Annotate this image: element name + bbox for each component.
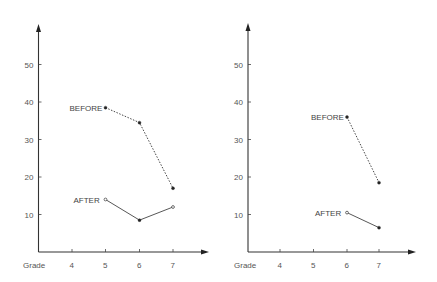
- chart-panel-right: 10203040504567GradeBEFOREAFTER: [234, 23, 416, 270]
- x-axis-arrow-icon: [408, 250, 416, 255]
- series-label-after: AFTER: [74, 196, 100, 205]
- y-tick-label: 50: [25, 61, 34, 70]
- y-tick-label: 30: [25, 136, 34, 145]
- chart-panel-left: 10203040504567GradeBEFOREAFTER: [23, 24, 209, 270]
- series-line-before: [347, 117, 379, 183]
- series-line-after: [106, 200, 174, 221]
- data-point-marker-icon: [172, 187, 175, 190]
- x-axis-title: Grade: [23, 261, 46, 270]
- data-point-marker-icon: [346, 116, 349, 119]
- series-line-before: [106, 108, 174, 189]
- series-label-before: BEFORE: [70, 104, 103, 113]
- x-tick-label: 7: [377, 261, 382, 270]
- x-tick-label: 7: [171, 261, 176, 270]
- data-point-marker-icon: [104, 198, 107, 201]
- y-tick-label: 10: [25, 211, 34, 220]
- x-axis-title: Grade: [234, 261, 257, 270]
- y-tick-label: 20: [25, 173, 34, 182]
- x-tick-label: 6: [345, 261, 350, 270]
- x-tick-label: 5: [311, 261, 316, 270]
- x-tick-label: 6: [137, 261, 142, 270]
- data-point-marker-icon: [346, 211, 349, 214]
- data-point-marker-icon: [172, 206, 175, 209]
- y-tick-label: 20: [234, 173, 243, 182]
- chart-canvas: 10203040504567GradeBEFOREAFTER1020304050…: [0, 0, 437, 282]
- series-line-after: [347, 213, 379, 228]
- y-tick-label: 10: [234, 211, 243, 220]
- y-tick-label: 50: [234, 61, 243, 70]
- data-point-marker-icon: [138, 219, 141, 222]
- y-tick-label: 40: [234, 98, 243, 107]
- y-tick-label: 40: [25, 98, 34, 107]
- y-axis-arrow-icon: [246, 23, 251, 31]
- x-tick-label: 4: [70, 261, 75, 270]
- series-label-before: BEFORE: [311, 113, 344, 122]
- y-tick-label: 30: [234, 136, 243, 145]
- data-point-marker-icon: [138, 121, 141, 124]
- x-tick-label: 5: [103, 261, 108, 270]
- x-tick-label: 4: [278, 261, 283, 270]
- y-axis-arrow-icon: [36, 24, 41, 32]
- data-point-marker-icon: [104, 106, 107, 109]
- series-label-after: AFTER: [315, 209, 341, 218]
- data-point-marker-icon: [378, 181, 381, 184]
- data-point-marker-icon: [378, 226, 381, 229]
- x-axis-arrow-icon: [201, 250, 209, 255]
